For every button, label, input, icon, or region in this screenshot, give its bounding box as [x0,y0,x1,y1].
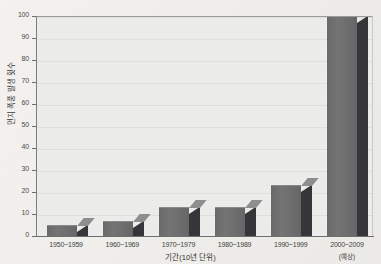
x-axis-tick-label: 2000~2009 [312,241,381,248]
y-axis-tick-label: 20 [22,187,29,194]
bar-front-face [215,207,245,236]
y-axis-tick-label: 40 [22,143,29,150]
y-axis-tick: 90 [0,38,36,39]
bar-side-face [301,185,312,236]
bar [271,185,301,236]
bar [159,207,189,236]
gridline [37,61,372,62]
bar-front-face [327,17,357,236]
y-axis-tick-label: 80 [22,55,29,62]
bar-front-face [47,225,77,236]
y-axis-tick: 50 [0,126,36,127]
bar [327,17,357,236]
gridline [37,83,372,84]
bar-side-face [133,220,144,236]
y-axis-tick: 80 [0,60,36,61]
y-axis-tick-label: 60 [22,99,29,106]
gridline [37,39,372,40]
plot-area [36,16,373,236]
bar-top-face [245,200,263,208]
y-axis-tick-label: 50 [22,121,29,128]
gridline [37,171,372,172]
bar-side-face [245,207,256,236]
y-axis-tick: 40 [0,148,36,149]
gridline [37,215,372,216]
bar-side-face [357,17,368,236]
bar-side-face [77,225,88,236]
bar-side-face [189,207,200,236]
gridline [37,149,372,150]
bar [47,225,77,236]
y-axis-tick: 70 [0,82,36,83]
gridline [37,105,372,106]
y-axis-tick: 0 [0,236,36,237]
y-axis-tick-label: 10 [22,209,29,216]
chart-container: 먼지 폭풍 발생 횟수 0102030405060708090100 1950~… [0,0,381,264]
bar-front-face [103,221,133,236]
y-axis-tick: 100 [0,16,36,17]
x-axis-line [36,236,374,237]
x-axis-title: 기간(10년 단위) [0,251,381,262]
gridline [37,127,372,128]
y-axis-tick: 20 [0,192,36,193]
y-axis-tick-label: 30 [22,165,29,172]
gridline [37,17,372,18]
bar [103,221,133,236]
bar-top-face [189,200,207,208]
y-axis-tick: 10 [0,214,36,215]
gridline [37,193,372,194]
bar [215,207,245,236]
plot-inner [37,17,372,236]
bar-front-face [271,185,301,236]
y-axis-tick-label: 70 [22,77,29,84]
y-axis-tick: 30 [0,170,36,171]
y-axis-tick-label: 100 [18,11,29,18]
bar-top-face [77,218,95,226]
bar-front-face [159,207,189,236]
y-axis-tick-label: 0 [25,231,29,238]
y-axis-tick: 60 [0,104,36,105]
y-axis-tick-label: 90 [22,33,29,40]
bar-top-face [301,178,319,186]
